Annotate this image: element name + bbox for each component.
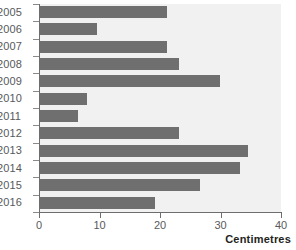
bar-2013 — [39, 145, 248, 157]
bar-2014 — [39, 162, 240, 174]
y-axis-line — [39, 4, 40, 212]
y-tick — [33, 177, 39, 178]
bar-row — [39, 56, 281, 73]
bar-row — [39, 125, 281, 142]
plot-area — [39, 4, 281, 212]
y-tick — [33, 39, 39, 40]
y-axis-label-2009: 2009 — [0, 75, 31, 87]
bar-row — [39, 108, 281, 125]
y-axis-label-2006: 2006 — [0, 23, 31, 35]
bar-row — [39, 21, 281, 38]
x-tick — [281, 212, 282, 218]
x-axis-label-40: 40 — [266, 219, 296, 231]
x-tick — [39, 212, 40, 218]
x-axis-label-30: 30 — [206, 219, 236, 231]
x-axis-label-0: 0 — [24, 219, 54, 231]
x-tick — [100, 212, 101, 218]
y-axis-label-2013: 2013 — [0, 144, 31, 156]
bar-2009 — [39, 75, 220, 87]
bar-row — [39, 39, 281, 56]
bar-2007 — [39, 41, 167, 53]
bar-2005 — [39, 6, 167, 18]
y-tick — [33, 143, 39, 144]
bar-2011 — [39, 110, 78, 122]
y-tick — [33, 125, 39, 126]
x-axis-label-20: 20 — [145, 219, 175, 231]
y-tick — [33, 195, 39, 196]
bar-chart: 2005200620072008200920102011201220132014… — [0, 0, 296, 250]
y-axis-label-2007: 2007 — [0, 40, 31, 52]
bar-row — [39, 4, 281, 21]
y-axis-label-2014: 2014 — [0, 162, 31, 174]
bar-2015 — [39, 179, 200, 191]
bar-2006 — [39, 23, 97, 35]
bar-row — [39, 73, 281, 90]
y-axis-label-2011: 2011 — [0, 110, 31, 122]
x-axis-title: Centimetres — [225, 233, 291, 245]
bar-row — [39, 177, 281, 194]
y-tick — [33, 91, 39, 92]
x-tick — [221, 212, 222, 218]
y-axis-label-2008: 2008 — [0, 58, 31, 70]
y-axis-label-2015: 2015 — [0, 179, 31, 191]
y-tick — [33, 56, 39, 57]
bar-2016 — [39, 197, 155, 209]
y-tick — [33, 108, 39, 109]
y-tick — [33, 4, 39, 5]
y-axis-label-2005: 2005 — [0, 6, 31, 18]
bar-2008 — [39, 58, 179, 70]
x-tick — [160, 212, 161, 218]
bar-row — [39, 143, 281, 160]
bar-2012 — [39, 127, 179, 139]
bar-row — [39, 160, 281, 177]
bar-row — [39, 195, 281, 212]
bar-2010 — [39, 93, 87, 105]
y-axis-label-2012: 2012 — [0, 127, 31, 139]
y-tick — [33, 160, 39, 161]
y-tick — [33, 73, 39, 74]
x-axis-label-10: 10 — [85, 219, 115, 231]
bar-row — [39, 91, 281, 108]
y-tick — [33, 21, 39, 22]
y-axis-label-2010: 2010 — [0, 92, 31, 104]
y-axis-label-2016: 2016 — [0, 196, 31, 208]
